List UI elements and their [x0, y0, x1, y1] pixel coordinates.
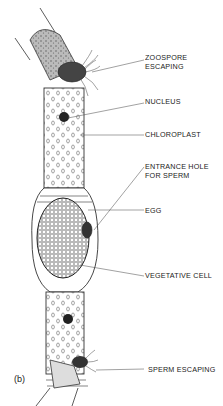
entrance-hole-shape — [82, 222, 92, 238]
label-vegetative-cell: VEGETATIVE CELL — [145, 271, 212, 280]
nucleus-shape — [59, 112, 69, 122]
label-egg: EGG — [145, 206, 162, 215]
panel-label: (b) — [14, 374, 25, 384]
label-zoospore-escaping: ZOOSPORE ESCAPING — [145, 53, 187, 71]
label-chloroplast: CHLOROPLAST — [145, 130, 201, 139]
zoospore-capsule — [30, 30, 86, 82]
label-line: ZOOSPORE — [145, 53, 187, 62]
oedogonium-filament-drawing — [0, 0, 223, 406]
sperm-shape — [72, 356, 88, 368]
upper-cell — [44, 88, 84, 188]
label-entrance-hole: ENTRANCE HOLE FOR SPERM — [145, 162, 209, 180]
label-line: ESCAPING — [145, 62, 187, 71]
label-sperm-escaping: SPERM ESCAPING — [148, 365, 216, 374]
label-line: FOR SPERM — [145, 171, 209, 180]
egg-shape — [37, 198, 89, 278]
label-line: ENTRANCE HOLE — [145, 162, 209, 171]
lower-nucleus-shape — [63, 314, 73, 324]
label-nucleus: NUCLEUS — [145, 97, 181, 106]
